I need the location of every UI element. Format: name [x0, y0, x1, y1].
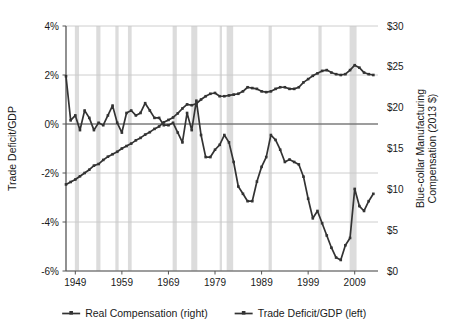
x-axis-tick-label: 1969 — [157, 277, 180, 288]
series-marker — [344, 244, 347, 247]
series-marker — [298, 86, 301, 89]
legend-marker-square — [69, 311, 73, 315]
series-marker — [65, 183, 68, 186]
x-axis-tick-label: 1949 — [64, 277, 87, 288]
series-marker — [218, 144, 221, 147]
series-marker — [367, 73, 370, 76]
series-marker — [121, 147, 124, 150]
y-axis-tick-label: 2% — [45, 70, 60, 81]
series-marker — [274, 88, 277, 91]
series-marker — [284, 161, 287, 164]
x-axis-tick-label: 1989 — [250, 277, 273, 288]
series-marker — [288, 88, 291, 91]
y2-axis-tick-label: $5 — [387, 225, 399, 236]
series-marker — [279, 86, 282, 89]
series-marker — [111, 153, 114, 156]
series-marker — [200, 134, 203, 137]
series-marker — [214, 92, 217, 95]
series-marker — [265, 91, 268, 94]
series-marker — [274, 139, 277, 142]
series-marker — [363, 71, 366, 74]
series-marker — [363, 210, 366, 213]
series-marker — [372, 193, 375, 196]
x-axis-tick-label: 2009 — [344, 277, 367, 288]
y-axis-tick-label: -4% — [41, 217, 59, 228]
recession-band — [128, 26, 132, 271]
series-marker — [181, 107, 184, 110]
series-marker — [65, 75, 68, 78]
legend-label: Real Compensation (right) — [85, 307, 208, 319]
series-marker — [246, 86, 249, 89]
series-marker — [111, 104, 114, 107]
series-marker — [251, 87, 254, 90]
series-marker — [190, 104, 193, 107]
series-marker — [214, 148, 217, 151]
y-axis-tick-label: -6% — [41, 266, 59, 277]
series-marker — [344, 73, 347, 76]
series-marker — [284, 86, 287, 89]
series-marker — [74, 178, 77, 181]
series-marker — [93, 129, 96, 132]
series-marker — [307, 78, 310, 81]
series-marker — [195, 102, 198, 105]
series-marker — [69, 119, 72, 122]
series-marker — [256, 88, 259, 91]
recession-band — [173, 26, 177, 271]
series-marker — [223, 95, 226, 98]
y2-axis-tick-label: $25 — [387, 61, 404, 72]
series-marker — [102, 159, 105, 162]
series-marker — [330, 246, 333, 249]
series-marker — [251, 200, 254, 203]
series-marker — [209, 92, 212, 95]
series-marker — [153, 117, 156, 120]
x-axis-tick-label: 1959 — [111, 277, 134, 288]
series-marker — [246, 200, 249, 203]
series-marker — [200, 98, 203, 101]
series-marker — [260, 90, 263, 93]
series-marker — [335, 256, 338, 259]
series-marker — [135, 139, 138, 142]
series-marker — [353, 188, 356, 191]
recession-band — [220, 26, 222, 271]
series-marker — [307, 197, 310, 200]
series-marker — [149, 109, 152, 112]
series-marker — [325, 69, 328, 72]
series-marker — [144, 133, 147, 136]
series-marker — [330, 71, 333, 74]
series-marker — [367, 200, 370, 203]
series-marker — [107, 155, 110, 158]
x-axis-tick-label: 1979 — [204, 277, 227, 288]
series-marker — [321, 70, 324, 73]
series-marker — [149, 131, 152, 134]
x-axis-tick-label: 1999 — [297, 277, 320, 288]
recession-band — [75, 26, 79, 271]
series-marker — [204, 156, 207, 159]
recession-band — [191, 26, 197, 271]
series-marker — [228, 141, 231, 144]
series-marker — [312, 75, 315, 78]
series-marker — [153, 128, 156, 131]
series-marker — [172, 121, 175, 124]
series-marker — [97, 121, 100, 124]
series-marker — [190, 129, 193, 132]
series-marker — [279, 148, 282, 151]
series-marker — [298, 163, 301, 166]
series-marker — [349, 69, 352, 72]
series-marker — [335, 73, 338, 76]
y2-axis-title-line1: Blue-collar Manufacturing — [414, 89, 426, 208]
series-marker — [176, 131, 179, 134]
series-marker — [97, 163, 100, 166]
legend-label: Trade Deficit/GDP (left) — [258, 307, 367, 319]
series-marker — [312, 217, 315, 220]
series-marker — [293, 88, 296, 91]
series-marker — [83, 172, 86, 175]
y2-axis-tick-label: $0 — [387, 266, 399, 277]
series-marker — [125, 112, 128, 115]
series-marker — [228, 94, 231, 97]
series-marker — [349, 237, 352, 240]
series-marker — [102, 124, 105, 127]
series-marker — [237, 92, 240, 95]
y2-axis-tick-label: $15 — [387, 143, 404, 154]
series-marker — [121, 131, 124, 134]
series-marker — [204, 95, 207, 98]
